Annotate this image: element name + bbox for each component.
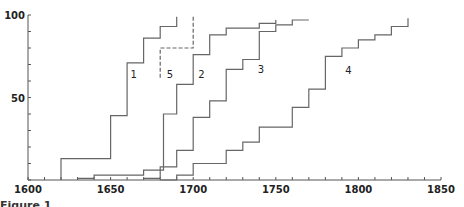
x-tick-label: 1800 [344, 184, 372, 195]
x-tick-label: 1750 [262, 184, 290, 195]
curve-label-5: 5 [167, 69, 173, 80]
curve-1 [61, 17, 177, 180]
curve-label-1: 1 [130, 69, 136, 80]
x-tick-label: 1850 [427, 184, 455, 195]
axes: 16001650170017501800185050100 [4, 10, 455, 195]
y-tick-label: 100 [4, 10, 25, 21]
x-tick-label: 1600 [14, 184, 42, 195]
curves [61, 17, 408, 180]
curve-label-2: 2 [198, 69, 204, 80]
curve-label-3: 3 [258, 64, 264, 75]
curve-labels: 15234 [130, 64, 351, 80]
curve-label-4: 4 [345, 65, 351, 76]
y-tick-label: 50 [11, 93, 25, 104]
curve-4 [160, 18, 408, 180]
step-chart: 16001650170017501800185050100 15234 [0, 0, 464, 207]
x-tick-label: 1700 [179, 184, 207, 195]
x-tick-label: 1650 [97, 184, 125, 195]
figure-caption: Figure 1. ... [0, 199, 72, 207]
